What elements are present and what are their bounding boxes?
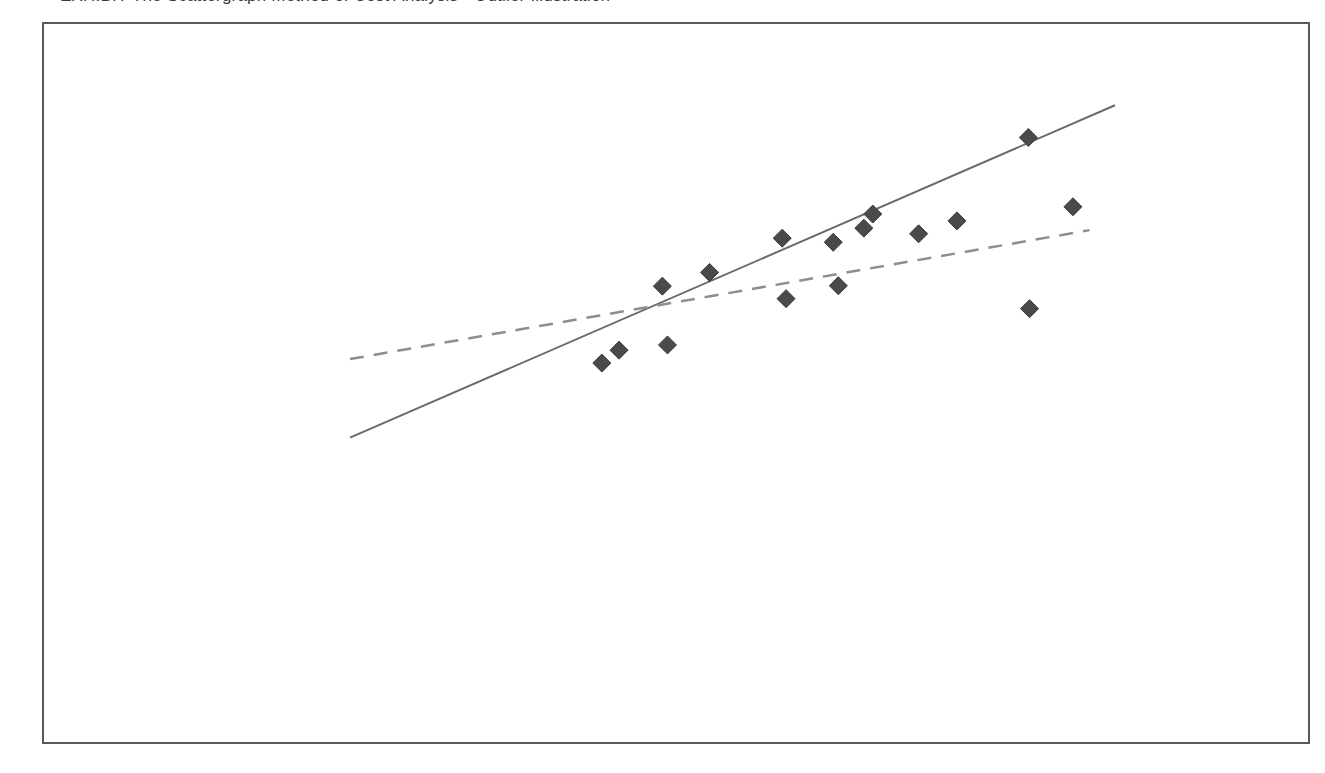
data-point-marker bbox=[948, 212, 966, 230]
figure-caption-strip: EXHIBIT The Scattergraph Method of Cost … bbox=[0, 0, 1325, 10]
data-point-marker bbox=[773, 229, 791, 247]
data-point-marker bbox=[829, 277, 847, 295]
data-point-marker bbox=[910, 225, 928, 243]
chart-plot-lines bbox=[350, 105, 1115, 437]
figure-page: EXHIBIT The Scattergraph Method of Cost … bbox=[0, 0, 1325, 773]
data-point-marker bbox=[653, 277, 671, 295]
scatter-chart bbox=[44, 24, 1308, 742]
figure-caption: EXHIBIT The Scattergraph Method of Cost … bbox=[60, 0, 610, 6]
data-point-marker bbox=[658, 336, 676, 354]
figure-frame bbox=[42, 22, 1310, 744]
data-point-marker bbox=[1021, 300, 1039, 318]
data-point-marker bbox=[824, 233, 842, 251]
data-point-marker bbox=[777, 290, 795, 308]
chart-markers bbox=[593, 128, 1082, 372]
data-point-marker bbox=[1064, 198, 1082, 216]
computed-regression-line bbox=[350, 230, 1090, 359]
data-point-marker bbox=[610, 341, 628, 359]
data-point-marker bbox=[855, 219, 873, 237]
data-point-marker bbox=[1019, 128, 1037, 146]
true-regression-line bbox=[350, 105, 1115, 437]
data-point-marker bbox=[593, 354, 611, 372]
